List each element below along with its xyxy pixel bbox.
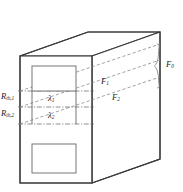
label-lambda-2: λ2 — [48, 111, 54, 121]
label-flux-2-sub: 2 — [117, 96, 120, 102]
label-flux-2: F2 — [112, 93, 120, 103]
label-lambda-1: λ1 — [48, 94, 54, 104]
label-resistance-1-sub: th,1 — [6, 95, 14, 101]
front-opening-upper — [32, 66, 76, 91]
front-opening-lower — [32, 144, 76, 173]
label-resistance-2: Rth,2 — [1, 109, 14, 119]
label-lambda-2-sub: 2 — [52, 114, 55, 120]
figure-container: Rth,1 Rth,2 λ1 λ2 F1 F2 F0 — [0, 0, 183, 192]
label-flux-0-sub: 0 — [171, 63, 174, 69]
slab-right-face — [92, 32, 160, 183]
label-flux-1-sub: 1 — [106, 80, 109, 86]
label-flux-1: F1 — [101, 77, 109, 87]
label-flux-0: F0 — [166, 60, 174, 70]
slab-wireframe-diagram — [0, 0, 183, 192]
label-lambda-1-sub: 1 — [52, 97, 55, 103]
label-resistance-1: Rth,1 — [1, 92, 14, 102]
label-resistance-2-sub: th,2 — [6, 112, 14, 118]
